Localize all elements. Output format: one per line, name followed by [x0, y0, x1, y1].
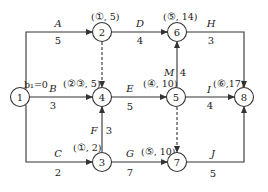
activity-G-duration: 7 [127, 167, 133, 178]
svg-text:2: 2 [99, 27, 105, 38]
activity-J-name: J [209, 148, 216, 159]
node-8: 8 [235, 88, 254, 107]
activity-H-name: H [206, 18, 216, 29]
activity-J-duration: 5 [210, 168, 216, 179]
activity-I-name: I [206, 84, 212, 95]
svg-text:8: 8 [241, 92, 247, 103]
node-3-tag: (①, 2) [73, 142, 102, 153]
network-diagram: A 5 B 3 C 2 D 4 E 5 F 3 G 7 H 3 I 4 J 5 … [0, 0, 268, 192]
activity-E-duration: 5 [127, 101, 133, 112]
node-3: 3 [93, 153, 112, 172]
node-8-tag: (⑥,17) [213, 78, 245, 89]
activity-B-duration: 3 [50, 100, 56, 111]
node-4: 4 [93, 88, 112, 107]
activity-E-name: E [125, 83, 134, 94]
activity-I-duration: 4 [207, 100, 213, 111]
activity-H-duration: 3 [208, 35, 214, 46]
svg-text:5: 5 [173, 92, 179, 103]
node-7: 7 [168, 153, 187, 172]
activity-B-name: B [48, 83, 56, 94]
activity-F-name: F [90, 125, 99, 136]
node-5: 5 [167, 88, 186, 107]
node-1: 1 [11, 88, 30, 107]
node-5-tag: (④, 10) [143, 78, 178, 89]
activity-D-duration: 4 [137, 35, 143, 46]
node-2-tag: (①, 5) [91, 11, 120, 22]
node-6: 6 [168, 23, 187, 42]
activity-A-duration: 5 [55, 35, 61, 46]
activity-M-duration: 4 [180, 67, 186, 78]
svg-text:7: 7 [174, 157, 180, 168]
activity-M-name: M [163, 67, 175, 78]
activity-C-name: C [54, 148, 62, 159]
activity-D-name: D [135, 18, 144, 29]
activity-A-name: A [53, 18, 61, 29]
node-2: 2 [93, 23, 112, 42]
node-4-tag: (②③, 5) [63, 78, 101, 89]
activity-C-duration: 2 [55, 167, 61, 178]
svg-text:1: 1 [17, 92, 23, 103]
svg-text:6: 6 [174, 27, 180, 38]
svg-text:4: 4 [99, 92, 105, 103]
edge-J [187, 107, 244, 162]
activity-F-duration: 3 [106, 125, 112, 136]
svg-text:3: 3 [99, 157, 105, 168]
node-1-tag: b₁=0 [24, 79, 48, 90]
activity-G-name: G [126, 148, 134, 159]
node-6-tag: (⑤, 14) [163, 11, 198, 22]
